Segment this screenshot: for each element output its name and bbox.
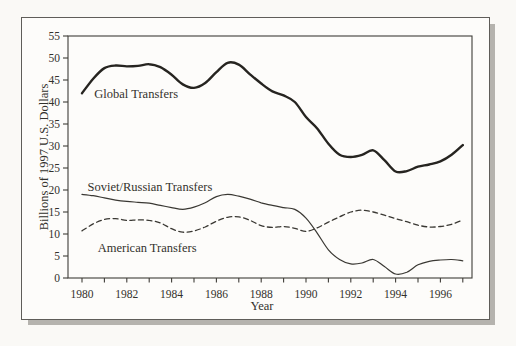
x-tick-label: 1992 — [339, 288, 362, 300]
x-tick-label: 1986 — [205, 288, 228, 300]
series-label-global-transfers: Global Transfers — [94, 87, 178, 101]
x-tick-label: 1996 — [429, 288, 452, 300]
x-tick-label: 1982 — [115, 288, 138, 300]
y-axis-title: Billions of 1997 U.S. Dollars — [37, 84, 52, 231]
x-tick-label: 1994 — [384, 288, 407, 300]
y-tick-label: 5 — [54, 250, 60, 262]
x-tick-label: 1990 — [295, 288, 318, 300]
series-line-global-transfers — [82, 62, 463, 172]
x-axis-title: Year — [250, 299, 273, 314]
y-tick-label: 0 — [54, 272, 60, 284]
y-tick-label: 50 — [49, 52, 61, 64]
series-line-american-transfers — [82, 210, 463, 232]
scanned-figure-page: 0510152025303540455055198019821984198619… — [0, 0, 516, 346]
x-tick-label: 1980 — [71, 288, 94, 300]
x-tick-label: 1984 — [160, 288, 183, 300]
series-label-soviet-russian-transfers: Soviet/Russian Transfers — [88, 180, 213, 194]
series-label-american-transfers: American Transfers — [98, 241, 197, 255]
arms-transfers-line-chart: 0510152025303540455055198019821984198619… — [0, 0, 516, 346]
y-tick-label: 55 — [49, 30, 61, 42]
series-line-soviet-russian-transfers — [82, 194, 463, 274]
